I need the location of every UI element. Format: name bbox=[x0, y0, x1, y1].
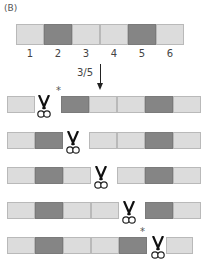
scissors-icon bbox=[65, 131, 81, 155]
panel-label: (B) bbox=[4, 3, 17, 13]
segment-2 bbox=[44, 24, 72, 45]
segment bbox=[145, 96, 173, 113]
segment bbox=[89, 132, 117, 149]
segment bbox=[7, 237, 35, 254]
segment bbox=[7, 202, 35, 219]
segment bbox=[173, 132, 201, 149]
segment-number-5: 5 bbox=[128, 48, 156, 59]
segment bbox=[145, 167, 173, 184]
segment bbox=[7, 167, 35, 184]
segment-number-6: 6 bbox=[156, 48, 184, 59]
scissors-icon bbox=[93, 166, 109, 190]
segment bbox=[91, 202, 119, 219]
segment-4 bbox=[100, 24, 128, 45]
segment bbox=[119, 237, 147, 254]
segment bbox=[117, 132, 145, 149]
segment bbox=[61, 96, 89, 113]
top-bar bbox=[16, 24, 184, 45]
segment-number-4: 4 bbox=[100, 48, 128, 59]
segment bbox=[173, 96, 201, 113]
scissors-icon bbox=[121, 201, 137, 225]
segment-1 bbox=[16, 24, 44, 45]
segment bbox=[117, 96, 145, 113]
arrow-head-icon bbox=[97, 83, 103, 90]
segment bbox=[89, 96, 117, 113]
segment bbox=[63, 167, 91, 184]
segment bbox=[35, 237, 63, 254]
arrow-label: 3/5 bbox=[77, 67, 93, 78]
segment bbox=[173, 202, 201, 219]
segment bbox=[35, 202, 63, 219]
segment bbox=[63, 237, 91, 254]
cut-row-4 bbox=[7, 202, 193, 219]
segment bbox=[117, 167, 145, 184]
scissors-icon bbox=[150, 236, 166, 260]
cut-row-1 bbox=[7, 96, 193, 113]
segment bbox=[7, 96, 35, 113]
cut-row-2 bbox=[7, 132, 193, 149]
segment-3 bbox=[72, 24, 100, 45]
scissors-icon bbox=[36, 95, 52, 119]
segment bbox=[145, 202, 173, 219]
segment bbox=[35, 132, 63, 149]
star-marker: * bbox=[56, 86, 61, 96]
segment bbox=[63, 202, 91, 219]
segment bbox=[7, 132, 35, 149]
segment-number-1: 1 bbox=[16, 48, 44, 59]
segment-number-3: 3 bbox=[72, 48, 100, 59]
segment bbox=[91, 237, 119, 254]
segment-5 bbox=[128, 24, 156, 45]
star-marker: * bbox=[140, 227, 145, 237]
segment bbox=[35, 167, 63, 184]
segment bbox=[145, 132, 173, 149]
segment-6 bbox=[156, 24, 184, 45]
segment-number-2: 2 bbox=[44, 48, 72, 59]
segment bbox=[166, 237, 193, 254]
segment bbox=[173, 167, 201, 184]
down-arrow-icon bbox=[100, 64, 101, 84]
